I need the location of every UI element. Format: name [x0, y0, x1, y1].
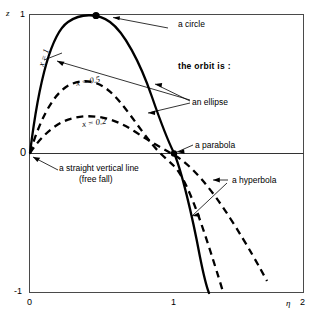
- x-tick-2: 2: [300, 298, 305, 307]
- curve-x-0-5: [30, 81, 223, 292]
- leader-circle: [113, 16, 168, 28]
- leader-hyperbola: [192, 178, 228, 217]
- x-tick-1: 1: [171, 298, 176, 307]
- y-tick-neg1: -1: [14, 287, 22, 296]
- leader-free-fall: [33, 157, 58, 170]
- y-tick-1: 1: [20, 10, 25, 19]
- y-tick-0: 0: [20, 147, 26, 158]
- curve-x-1: [30, 15, 209, 293]
- crossing-marker-dot: [171, 150, 177, 156]
- label-a-parabola: a parabola: [195, 140, 235, 151]
- label-straight-vertical-line: a straight vertical line: [59, 163, 139, 174]
- leader-parabola: [177, 145, 193, 154]
- orbit-classification-figure: z 1 0 -1 0 1 2 η the orbit is : a circle…: [0, 0, 318, 324]
- x-tick-0: 0: [27, 298, 32, 307]
- orbit-heading: the orbit is :: [178, 61, 231, 72]
- label-free-fall: (free fall): [79, 174, 113, 185]
- label-a-circle: a circle: [178, 19, 205, 30]
- label-an-ellipse: an ellipse: [192, 97, 228, 108]
- label-a-hyperbola: a hyperbola: [232, 175, 276, 186]
- x-axis-name: η: [286, 299, 290, 308]
- apex-marker-dot: [92, 12, 99, 19]
- y-axis-name: z: [6, 9, 10, 18]
